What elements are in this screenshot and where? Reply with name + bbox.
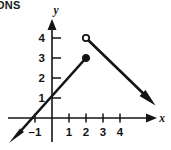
graph-figure: ONS –1 1 2 [0, 0, 171, 150]
x-axis-label: x [158, 112, 165, 124]
x-tick-label-2: 2 [83, 126, 89, 138]
y-tick-labels: 1 2 3 4 [39, 32, 46, 104]
y-tick-label-3: 3 [39, 52, 45, 64]
descending-ray-line [86, 38, 148, 98]
x-tick-labels: –1 1 2 3 4 [29, 126, 124, 138]
y-tick-label-2: 2 [39, 72, 45, 84]
y-tick-label-1: 1 [39, 92, 46, 104]
y-axis-arrowhead [48, 19, 57, 30]
x-tick-label-neg1: –1 [29, 126, 42, 138]
ascending-ray-arrowhead [9, 129, 24, 144]
open-endpoint-marker [83, 35, 89, 41]
y-tick-label-4: 4 [39, 32, 46, 44]
x-tick-label-3: 3 [100, 126, 106, 138]
x-tick-label-1: 1 [66, 126, 73, 138]
closed-endpoint-marker [82, 54, 89, 61]
descending-ray-group [83, 35, 156, 106]
y-axis-label: y [51, 4, 59, 17]
ascending-ray-group [9, 54, 90, 143]
x-tick-label-4: 4 [117, 126, 124, 138]
coordinate-plane-graph: –1 1 2 3 4 1 2 3 4 x y [0, 0, 171, 150]
x-axis-arrowhead [146, 114, 157, 123]
